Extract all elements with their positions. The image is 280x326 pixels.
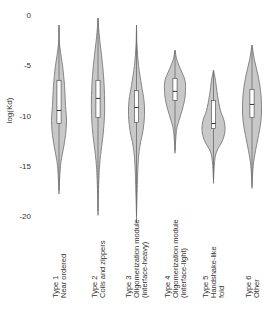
- y-axis-label: log(Kd): [5, 97, 14, 123]
- x-category-label-line: Coils and zippers: [98, 240, 107, 298]
- y-tick-label: -10: [19, 112, 31, 121]
- violin-3: [128, 25, 144, 222]
- x-category-label-2: Type 2Coils and zippers: [90, 240, 107, 298]
- violin-2: [91, 18, 104, 215]
- violin-6: [242, 45, 261, 188]
- x-category-label-line: (interface-light): [179, 247, 188, 298]
- box-iqr: [96, 80, 100, 117]
- y-tick-label: 0: [27, 11, 32, 20]
- x-category-label-line: Other: [252, 279, 261, 298]
- x-category-label-line: Near ordered: [59, 254, 68, 298]
- box-iqr: [173, 78, 177, 100]
- y-tick-label: -15: [19, 162, 31, 171]
- x-category-label-4: Type 4Oligomerization module(interface-l…: [163, 219, 188, 298]
- violin-4: [164, 50, 185, 153]
- x-category-label-1: Type 1Near ordered: [51, 254, 68, 298]
- violin-5: [202, 70, 225, 183]
- box-iqr: [250, 89, 254, 117]
- y-axis: 0-5-10-15-20: [19, 11, 31, 221]
- box-iqr: [134, 90, 138, 122]
- x-category-label-line: fold: [218, 286, 227, 298]
- box-iqr: [211, 100, 215, 128]
- x-axis-category-labels: Type 1Near orderedType 2Coils and zipper…: [51, 219, 261, 298]
- violins: [52, 18, 262, 222]
- violin-1: [52, 25, 67, 194]
- y-tick-label: -5: [24, 61, 32, 70]
- violin-chart: 0-5-10-15-20 log(Kd) Type 1Near orderedT…: [0, 0, 280, 326]
- x-category-label-5: Type 5Handshake-likefold: [201, 246, 226, 298]
- y-tick-label: -20: [19, 212, 31, 221]
- x-category-label-line: (interface-heavy): [141, 241, 150, 298]
- box-iqr: [57, 80, 61, 123]
- x-category-label-3: Type 3Oligomerization module(interface-h…: [124, 219, 149, 298]
- x-category-label-6: Type 6Other: [244, 275, 261, 298]
